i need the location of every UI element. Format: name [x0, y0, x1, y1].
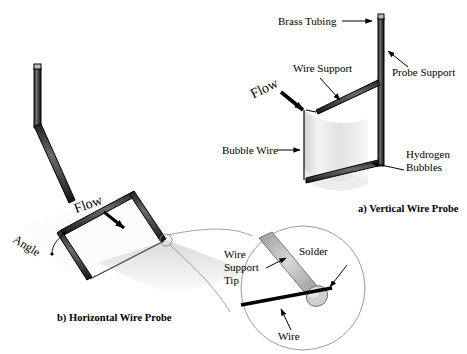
label-wire-support-tip: Wire Support Tip	[224, 248, 276, 287]
horizontal-probe-stem	[34, 64, 41, 128]
figure-hydrogen-bubble-wire-probes: Brass Tubing Wire Support Probe Support …	[0, 0, 467, 354]
label-wire-support-tip-line1: Wire	[224, 248, 246, 260]
brass-tubing-cap	[378, 14, 384, 19]
panel-b-horizontal-wire-probe	[22, 64, 250, 296]
flow-arrow-vertical-probe	[281, 92, 303, 110]
diagram-canvas	[0, 0, 467, 354]
label-wire-support-tip-line3: Tip	[224, 274, 239, 286]
label-hydrogen-bubbles-line1: Hydrogen	[406, 148, 450, 160]
caption-panel-b: b) Horizontal Wire Probe	[57, 312, 171, 323]
label-probe-support: Probe Support	[392, 66, 455, 79]
leader-wire-support	[320, 78, 340, 100]
probe-support-tube	[378, 14, 384, 166]
angle-arc-end-dot	[50, 252, 53, 255]
label-bubble-wire: Bubble Wire	[222, 144, 278, 157]
horizontal-probe-elbow	[34, 124, 75, 203]
label-hydrogen-bubbles-line2: Bubbles	[406, 161, 442, 173]
label-wire-support-tip-line2: Support	[224, 261, 259, 273]
label-solder: Solder	[299, 245, 328, 258]
label-brass-tubing: Brass Tubing	[278, 15, 336, 28]
angle-arc-vertex-dot	[62, 231, 65, 234]
leader-probe-support	[388, 51, 408, 67]
bubble-wire-upper	[306, 110, 316, 112]
wire-support-strut	[316, 80, 380, 114]
label-hydrogen-bubbles: Hydrogen Bubbles	[406, 148, 464, 174]
callout-line-upper	[168, 229, 252, 236]
horizontal-probe-stem-cap	[34, 64, 41, 69]
caption-panel-a: a) Vertical Wire Probe	[358, 203, 458, 214]
label-wire-support: Wire Support	[293, 62, 352, 75]
label-wire: Wire	[278, 330, 300, 343]
panel-a-vertical-wire-probe	[277, 14, 408, 191]
